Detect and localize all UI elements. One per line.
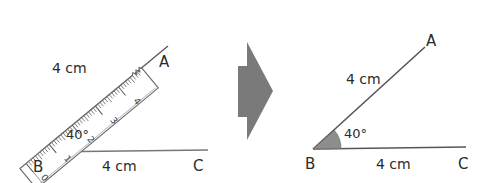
- left-point-a-label: A: [159, 55, 169, 70]
- left-point-b-label: B: [33, 160, 43, 175]
- right-base-length-label: 4 cm: [376, 157, 411, 171]
- transition-arrow-icon: [238, 42, 273, 140]
- left-angle-label: 40°: [66, 128, 89, 141]
- right-ray-length-label: 4 cm: [346, 72, 381, 86]
- right-point-c-label: C: [458, 157, 468, 172]
- left-ray-length-label: 4 cm: [52, 61, 87, 75]
- right-panel-graphics: [313, 47, 466, 149]
- right-ray-line: [313, 47, 425, 149]
- left-point-c-label: C: [193, 159, 203, 174]
- right-point-a-label: A: [426, 34, 436, 49]
- left-base-length-label: 4 cm: [102, 159, 137, 173]
- diagram-canvas: 0 1 2 3 4 4 cm A 40° B 4 cm C A: [0, 0, 488, 183]
- right-angle-label: 40°: [344, 127, 367, 140]
- right-angle-wedge: [313, 130, 341, 149]
- right-point-b-label: B: [305, 157, 315, 172]
- diagram-svg: 0 1 2 3 4: [0, 0, 488, 183]
